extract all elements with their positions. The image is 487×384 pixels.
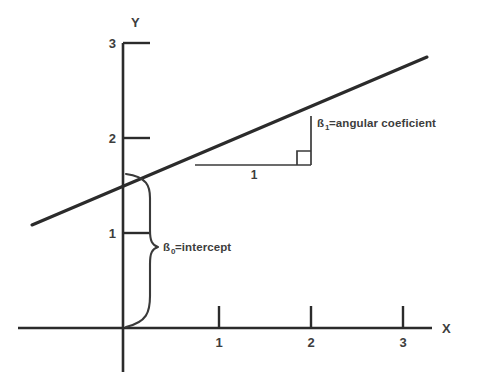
axes-group bbox=[18, 43, 432, 372]
x-tick-label-1: 1 bbox=[215, 335, 222, 350]
intercept-annotation: ß 0 =intercept bbox=[163, 241, 231, 256]
x-tick-label-2: 2 bbox=[307, 335, 314, 350]
right-angle-marker bbox=[297, 151, 311, 165]
y-axis-title: Y bbox=[131, 15, 140, 30]
diagram-canvas: Y X 3 2 1 1 2 3 1 ß 1 =angular coeficien… bbox=[0, 0, 487, 384]
y-axis-ticks bbox=[123, 43, 150, 233]
slope-annotation-symbol: ß bbox=[317, 117, 324, 129]
intercept-annotation-text: =intercept bbox=[175, 241, 231, 253]
x-axis-title: X bbox=[442, 321, 451, 336]
slope-annotation-text: =angular coeficient bbox=[329, 117, 436, 129]
regression-line bbox=[32, 57, 427, 225]
triangle-run-label: 1 bbox=[251, 168, 258, 182]
regression-diagram: Y X 3 2 1 1 2 3 1 ß 1 =angular coeficien… bbox=[0, 0, 487, 384]
x-axis-ticks bbox=[219, 306, 403, 328]
x-tick-label-3: 3 bbox=[399, 335, 406, 350]
intercept-annotation-symbol: ß bbox=[163, 241, 170, 253]
y-tick-label-3: 3 bbox=[109, 36, 116, 51]
slope-annotation: ß 1 =angular coeficient bbox=[317, 117, 436, 132]
brace-path bbox=[126, 174, 158, 327]
y-tick-label-1: 1 bbox=[109, 226, 116, 241]
y-tick-label-2: 2 bbox=[109, 131, 116, 146]
intercept-brace bbox=[126, 174, 158, 327]
